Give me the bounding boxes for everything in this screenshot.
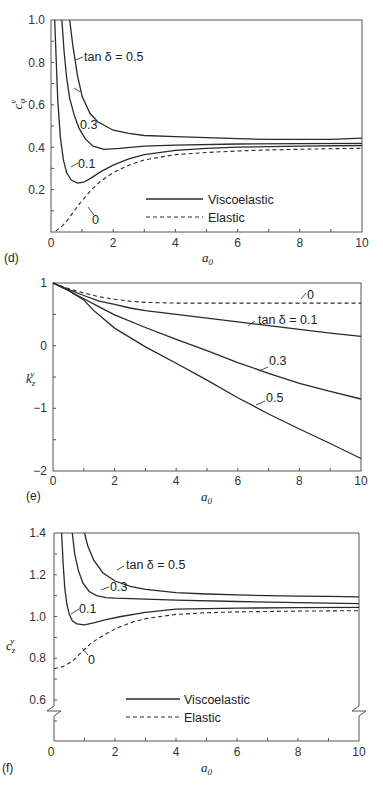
y-tick-labels-e: 1 0 −1 −2 — [33, 276, 47, 478]
curve-e-tan03 — [53, 283, 361, 399]
svg-text:0: 0 — [50, 474, 57, 488]
x-axis-title-f: a0 — [201, 760, 213, 777]
svg-text:10: 10 — [355, 236, 369, 250]
legend-f: Viscoelastic Elastic — [126, 693, 250, 725]
curve-label-f-tan0: 0 — [88, 653, 95, 667]
panel-tag-f: (f) — [2, 761, 13, 775]
y-axis-title-d: cφv — [8, 99, 27, 110]
svg-text:0.8: 0.8 — [29, 651, 46, 665]
panel-d: 0 2 4 6 8 10 0.2 0.4 0.6 0.8 1.0 cφv a0 … — [4, 13, 369, 267]
svg-text:6: 6 — [234, 745, 241, 759]
legend-d: Viscoelastic Elastic — [146, 193, 274, 225]
curve-d-tan03 — [62, 20, 362, 149]
svg-text:4: 4 — [172, 236, 179, 250]
curve-e-tan05 — [53, 283, 361, 459]
svg-text:10: 10 — [352, 745, 366, 759]
curve-d-tan01 — [55, 20, 362, 183]
curve-label-e-tan01: tan δ = 0.1 — [258, 313, 317, 327]
svg-text:2: 2 — [110, 236, 117, 250]
curve-label-f-tan05: tan δ = 0.5 — [126, 558, 185, 572]
curve-label-e-tan0: 0 — [307, 288, 314, 302]
panel-e: 0 2 4 6 8 10 1 0 −1 −2 kzv a0 (e) 0 tan … — [26, 276, 368, 506]
curve-label-f-tan01: 0.1 — [79, 602, 96, 616]
svg-text:1.0: 1.0 — [29, 610, 46, 624]
y-axis-title-f: czv — [6, 636, 16, 655]
svg-text:8: 8 — [296, 236, 303, 250]
label-arrows-e — [248, 293, 306, 405]
y-tick-labels-d: 0.2 0.4 0.6 0.8 1.0 — [28, 13, 45, 197]
curve-label-d-tan03: 0.3 — [80, 118, 97, 132]
svg-text:1.4: 1.4 — [29, 526, 46, 540]
curve-d-tan05 — [70, 20, 362, 139]
plot-frame-f — [47, 533, 366, 741]
panel-tag-d: (d) — [4, 251, 19, 265]
svg-text:0.6: 0.6 — [28, 98, 45, 112]
curves-d — [55, 20, 362, 183]
svg-text:0: 0 — [48, 236, 55, 250]
svg-text:1.0: 1.0 — [28, 13, 45, 27]
svg-text:2: 2 — [111, 474, 118, 488]
curve-label-d-tan0: 0 — [92, 213, 99, 227]
svg-text:0.8: 0.8 — [28, 56, 45, 70]
x-axis-title-e: a0 — [201, 489, 213, 506]
legend-label-elastic-d: Elastic — [208, 211, 245, 225]
svg-text:0: 0 — [40, 339, 47, 353]
label-arrows-d — [71, 57, 94, 215]
curve-label-e-tan05: 0.5 — [266, 391, 283, 405]
svg-text:cφv: cφv — [8, 99, 27, 110]
svg-text:1.2: 1.2 — [29, 568, 46, 582]
x-tick-labels-d: 0 2 4 6 8 10 — [48, 236, 369, 250]
curve-f-elastic — [54, 611, 359, 669]
figure: 0 2 4 6 8 10 0.2 0.4 0.6 0.8 1.0 cφv a0 … — [0, 0, 383, 786]
svg-text:1: 1 — [40, 276, 47, 290]
panel-f: 0 2 4 6 8 10 1.4 1.2 1.0 0.8 0.6 czv a0 … — [2, 526, 366, 777]
curve-e-elastic — [53, 283, 361, 303]
legend-label-viscoelastic-f: Viscoelastic — [184, 693, 250, 707]
svg-text:8: 8 — [295, 745, 302, 759]
svg-text:0.4: 0.4 — [28, 141, 45, 155]
y-tick-labels-f: 1.4 1.2 1.0 0.8 0.6 — [29, 526, 46, 707]
svg-text:6: 6 — [234, 474, 241, 488]
plot-frame-e — [53, 283, 361, 471]
svg-text:2: 2 — [112, 745, 119, 759]
svg-text:6: 6 — [234, 236, 241, 250]
curve-label-d-tan01: 0.1 — [78, 157, 95, 171]
curves-e — [53, 283, 361, 459]
y-axis-title-e: kzv — [26, 369, 36, 388]
svg-text:0: 0 — [48, 745, 55, 759]
x-tick-labels-f: 0 2 4 6 8 10 — [48, 745, 366, 759]
curve-label-e-tan03: 0.3 — [269, 354, 286, 368]
svg-text:0.6: 0.6 — [29, 693, 46, 707]
svg-text:10: 10 — [354, 474, 368, 488]
curve-e-tan01 — [53, 283, 361, 336]
svg-text:4: 4 — [173, 745, 180, 759]
curve-label-d-tan05: tan δ = 0.5 — [84, 50, 143, 64]
svg-text:−2: −2 — [33, 464, 47, 478]
svg-text:4: 4 — [173, 474, 180, 488]
legend-label-elastic-f: Elastic — [184, 711, 221, 725]
svg-text:8: 8 — [296, 474, 303, 488]
x-tick-labels-e: 0 2 4 6 8 10 — [50, 474, 368, 488]
x-axis-title-d: a0 — [202, 250, 214, 267]
panel-tag-e: (e) — [26, 489, 41, 503]
legend-label-viscoelastic-d: Viscoelastic — [208, 193, 274, 207]
svg-text:0.2: 0.2 — [28, 183, 45, 197]
curve-label-f-tan03: 0.3 — [110, 580, 127, 594]
svg-text:−1: −1 — [33, 401, 47, 415]
